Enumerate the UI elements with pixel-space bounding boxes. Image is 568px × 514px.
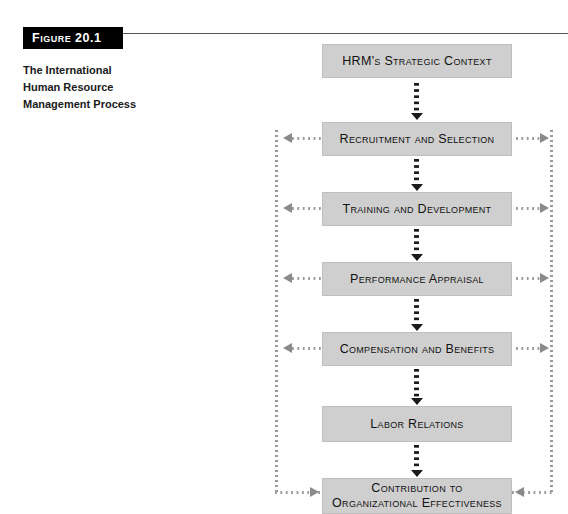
connector-dots (414, 445, 419, 469)
connector-arrowhead-down (411, 398, 423, 405)
feedback-arrow-right-recruitment (540, 133, 549, 143)
feedback-arrow-left-performance (283, 273, 292, 283)
flow-connector-1 (414, 83, 419, 120)
flow-node-labor-relations: Labor Relations (322, 406, 512, 442)
connector-dots (414, 229, 419, 253)
feedback-stub-left-recruitment (292, 137, 322, 140)
feedback-arrow-left-compensation (283, 343, 292, 353)
connector-arrowhead-down (411, 254, 423, 261)
flow-node-contribution-to-effectiveness: Contribution to Organizational Effective… (322, 478, 512, 514)
feedback-stub-left-compensation (292, 347, 322, 350)
figure-number-label: Figure 20.1 (32, 32, 101, 45)
connector-arrowhead-down (411, 113, 423, 120)
figure-number-badge: Figure 20.1 (23, 27, 123, 49)
flow-connector-2 (414, 159, 419, 191)
feedback-arrow-left-training (283, 203, 292, 213)
flow-node-label-line-2: Organizational Effectiveness (332, 496, 502, 510)
flow-node-compensation-and-benefits: Compensation and Benefits (322, 332, 512, 366)
feedback-arrow-right-performance (540, 273, 549, 283)
flow-connector-5 (414, 369, 419, 405)
flow-node-label-line-1: Contribution to (371, 481, 462, 495)
figure-caption-line-2: Human Resource (23, 79, 173, 96)
feedback-arrow-right-compensation (540, 343, 549, 353)
feedback-arrow-right-training (540, 203, 549, 213)
connector-dots (414, 369, 419, 397)
connector-arrowhead-down (411, 470, 423, 477)
feedback-arrow-into-contribution-right (515, 487, 524, 497)
feedback-rail-right-vertical (550, 130, 553, 492)
flow-node-training-and-development: Training and Development (322, 192, 512, 226)
flow-node-label: Training and Development (337, 202, 498, 217)
flow-node-label: HRM's Strategic Context (336, 54, 497, 69)
flow-node-label-multiline: Contribution to Organizational Effective… (326, 481, 508, 511)
flow-node-label: Labor Relations (364, 417, 469, 432)
figure-caption-line-3: Management Process (23, 96, 173, 113)
feedback-arrow-into-contribution-left (310, 487, 319, 497)
connector-dots (414, 299, 419, 323)
connector-dots (414, 159, 419, 183)
feedback-arrow-left-recruitment (283, 133, 292, 143)
connector-dots (414, 83, 419, 112)
flow-node-label: Recruitment and Selection (334, 132, 501, 147)
flow-node-performance-appraisal: Performance Appraisal (322, 262, 512, 296)
flow-connector-3 (414, 229, 419, 261)
connector-arrowhead-down (411, 184, 423, 191)
flow-connector-6 (414, 445, 419, 477)
feedback-stub-left-training (292, 207, 322, 210)
figure-caption: The International Human Resource Managem… (23, 62, 173, 113)
feedback-stub-left-performance (292, 277, 322, 280)
flow-node-hrm-strategic-context: HRM's Strategic Context (322, 44, 512, 78)
flow-connector-4 (414, 299, 419, 331)
flow-node-label: Compensation and Benefits (334, 342, 501, 357)
figure-caption-line-1: The International (23, 62, 173, 79)
connector-arrowhead-down (411, 324, 423, 331)
flow-node-label: Performance Appraisal (344, 272, 490, 287)
flow-node-recruitment-and-selection: Recruitment and Selection (322, 122, 512, 156)
feedback-rail-left-vertical (275, 130, 278, 492)
